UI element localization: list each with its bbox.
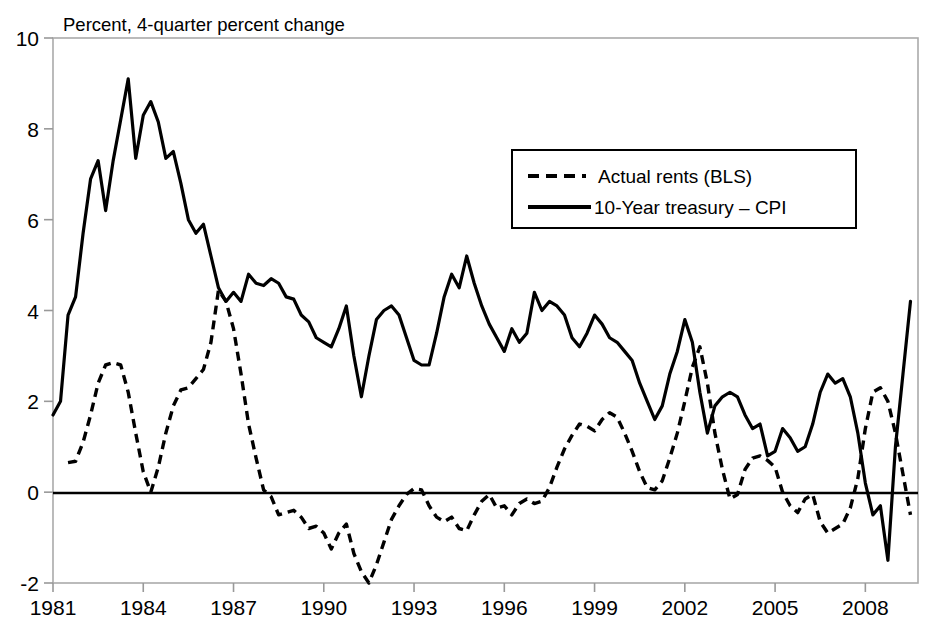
x-axis-tick-labels: 1981198419871990199319961999200220052008 [30,596,889,619]
x-axis-ticks [53,583,865,592]
series-line-actual-rents [68,290,910,583]
legend-label-actual-rents: Actual rents (BLS) [598,166,752,187]
y-tick-label: 2 [27,390,39,413]
x-tick-label: 2002 [661,596,708,619]
y-tick-label: 0 [27,481,39,504]
y-axis-ticks [44,38,53,583]
y-tick-label: 6 [27,209,39,232]
x-tick-label: 1990 [300,596,347,619]
legend-label-treasury-cpi: 10-Year treasury – CPI [594,197,787,218]
chart-legend: Actual rents (BLS) 10-Year treasury – CP… [512,150,856,228]
chart-title: Percent, 4-quarter percent change [63,14,345,35]
x-tick-label: 1993 [391,596,438,619]
y-tick-label: 8 [27,118,39,141]
y-tick-label: 10 [16,27,39,50]
y-axis-tick-labels: -20246810 [16,27,40,595]
x-tick-label: 2008 [842,596,889,619]
x-tick-label: 1987 [210,596,257,619]
x-tick-label: 1996 [481,596,528,619]
line-chart: -20246810 198119841987199019931996199920… [0,0,930,628]
chart-figure: -20246810 198119841987199019931996199920… [0,0,930,628]
x-tick-label: 1981 [30,596,77,619]
x-tick-label: 1999 [571,596,618,619]
y-tick-label: 4 [27,300,39,323]
x-tick-label: 1984 [120,596,167,619]
x-tick-label: 2005 [752,596,799,619]
y-tick-label: -2 [20,572,39,595]
